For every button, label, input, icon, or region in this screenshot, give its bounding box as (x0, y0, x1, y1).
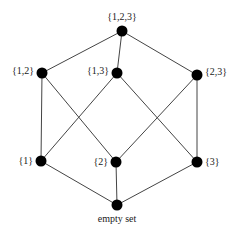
edge-n3-n0 (117, 162, 197, 205)
edge-n123-n12 (42, 31, 122, 73)
node-label-n2: {2} (93, 156, 108, 167)
hasse-diagram: {1,2,3}{1,2}{1,3}{2,3}{1}{2}{3}empty set (0, 0, 242, 234)
node-n0 (112, 200, 123, 211)
edge-n123-n13 (117, 31, 122, 73)
edge-n1-n0 (41, 161, 117, 205)
node-label-n0: empty set (98, 213, 137, 224)
edge-n2-n0 (116, 162, 117, 205)
node-label-n3: {3} (205, 156, 220, 167)
node-n123 (117, 26, 128, 37)
node-label-n13: {1,3} (87, 65, 109, 76)
node-n12 (37, 68, 48, 79)
node-label-n12: {1,2} (12, 65, 34, 76)
node-n23 (192, 70, 203, 81)
edge-n12-n1 (41, 73, 42, 161)
edges (41, 31, 197, 205)
node-n2 (111, 157, 122, 168)
node-n1 (36, 156, 47, 167)
node-label-n23: {2,3} (205, 66, 227, 77)
edge-n123-n23 (122, 31, 197, 75)
node-label-n123: {1,2,3} (107, 11, 137, 22)
node-label-n1: {1} (18, 155, 33, 166)
labels: {1,2,3}{1,2}{1,3}{2,3}{1}{2}{3}empty set (12, 11, 227, 224)
hasse-diagram-svg: {1,2,3}{1,2}{1,3}{2,3}{1}{2}{3}empty set (0, 0, 242, 234)
node-n13 (112, 68, 123, 79)
node-n3 (192, 157, 203, 168)
